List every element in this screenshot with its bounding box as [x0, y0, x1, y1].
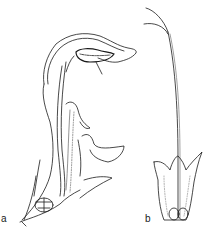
flower-section-drawing	[20, 34, 136, 226]
botanical-figure: a b	[0, 0, 222, 246]
panel-label-b: b	[145, 214, 151, 224]
panel-label-a: a	[1, 214, 7, 224]
illustration	[0, 0, 222, 246]
calyx-pistil-drawing	[144, 8, 202, 220]
